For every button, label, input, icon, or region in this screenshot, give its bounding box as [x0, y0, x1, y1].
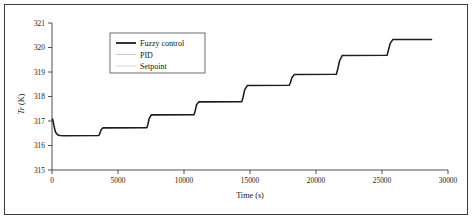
y-tick-label: 318: [34, 92, 45, 101]
series-group: [52, 39, 432, 135]
x-tick-label: 20000: [307, 176, 326, 185]
x-tick-label: 0: [50, 176, 54, 185]
x-tick-label: 10000: [175, 176, 194, 185]
y-axis-title: Tr (K): [17, 93, 26, 114]
legend-label-setpoint: Setpoint: [140, 62, 167, 71]
y-tick-label: 319: [34, 68, 45, 77]
y-tick-label: 320: [34, 43, 45, 52]
chart-legend: Fuzzy controlPIDSetpoint: [110, 33, 205, 73]
chart-container: 315316317318319320321 050001000015000200…: [0, 0, 474, 221]
x-axis-title: Time (s): [236, 191, 264, 200]
x-tick-label: 5000: [111, 176, 126, 185]
x-tick-label: 30000: [439, 176, 458, 185]
y-tick-label: 315: [34, 166, 45, 175]
line-chart: 315316317318319320321 050001000015000200…: [0, 0, 474, 221]
legend-label-pid: PID: [140, 51, 153, 60]
x-tick-label: 15000: [241, 176, 260, 185]
y-axis-title-plain: (K): [17, 93, 26, 107]
svg-text:Tr (K): Tr (K): [17, 93, 26, 114]
y-tick-label: 316: [34, 141, 45, 150]
y-tick-label: 317: [34, 117, 45, 126]
x-tick-label: 25000: [373, 176, 392, 185]
series-line-fuzzy-control: [52, 39, 432, 135]
y-tick-label: 321: [34, 19, 45, 28]
y-axis-ticks: 315316317318319320321: [34, 19, 52, 175]
x-axis-ticks: 050001000015000200002500030000: [50, 170, 457, 185]
legend-label-fuzzy-control: Fuzzy control: [140, 39, 185, 48]
